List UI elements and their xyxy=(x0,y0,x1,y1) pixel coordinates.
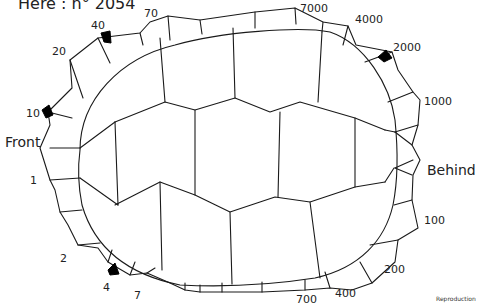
marginal-label-70: 70 xyxy=(144,8,158,19)
marginal-label-20: 20 xyxy=(52,46,66,57)
marginal-label-4: 4 xyxy=(103,282,110,293)
notch-mark-10 xyxy=(42,105,53,118)
marginal-label-400: 400 xyxy=(335,288,356,299)
marginal-label-700: 700 xyxy=(296,294,317,305)
shell-inner-edge xyxy=(79,30,397,286)
marginal-label-10: 10 xyxy=(26,108,40,119)
notch-mark-40 xyxy=(101,31,111,43)
notch-mark-4 xyxy=(108,263,119,275)
front-label: Front xyxy=(5,135,40,149)
costal-top-row-boundary xyxy=(115,98,385,130)
marginal-label-2: 2 xyxy=(60,253,67,264)
shell-id-title: Here : n° 2054 xyxy=(18,0,135,13)
behind-label: Behind xyxy=(427,163,476,177)
marginal-label-200: 200 xyxy=(384,264,405,275)
marginal-label-2000: 2000 xyxy=(393,42,421,53)
marginal-label-7000: 7000 xyxy=(300,3,328,14)
marginal-label-1000: 1000 xyxy=(424,96,452,107)
marginal-label-7: 7 xyxy=(134,290,141,301)
shell-outer-edge xyxy=(40,8,420,292)
costal-bottom-row-boundary xyxy=(115,182,385,212)
marginal-label-1: 1 xyxy=(30,175,37,186)
turtle-shell-diagram: Here : n° 2054 Front Behind 70 40 20 10 … xyxy=(0,0,481,307)
credit-text: Reproduction xyxy=(436,295,476,302)
marginal-label-4000: 4000 xyxy=(355,14,383,25)
marginal-label-100: 100 xyxy=(424,215,445,226)
marginal-label-40: 40 xyxy=(91,20,105,31)
